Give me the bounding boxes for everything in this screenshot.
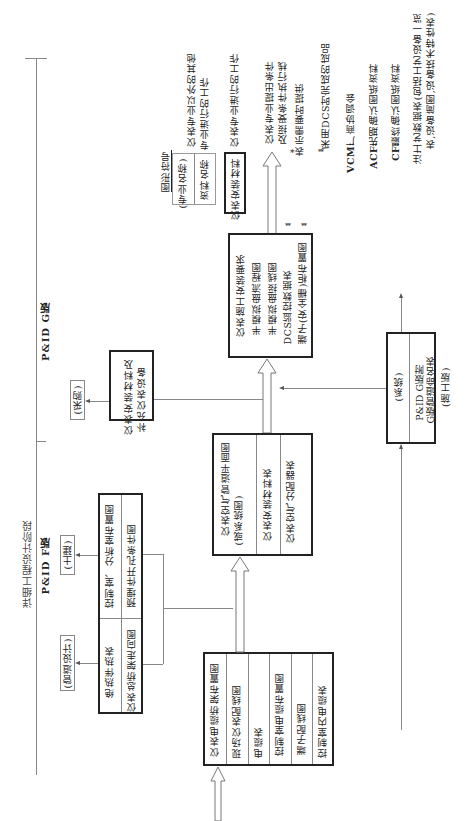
piping-item-1: 绝热伴热表 — [104, 645, 116, 698]
abbr-vcm-value: 厂商协调会 — [345, 92, 357, 145]
connector-system-up — [401, 297, 402, 332]
arrowhead-to-piping — [75, 661, 80, 665]
connector-system-bottom — [401, 445, 402, 730]
cable-divider-2 — [248, 654, 249, 764]
legend-thin-box-line-2: 资料名称 — [199, 158, 211, 200]
cable-item-5: 端子配线图 — [296, 702, 308, 755]
legend-thin-box: (专业名称) 资料名称 — [172, 153, 216, 205]
cable-divider-4 — [291, 654, 292, 764]
box-instrument-air: 仪表空气管道平面图 (或系统图) 仪表安装材料表 仪表空气分配器表 — [212, 433, 313, 556]
divider-row — [100, 618, 141, 619]
cable-divider-1 — [226, 654, 227, 764]
box-supplement-materials: 仪表安装材料及 补充仪表设备 — [109, 350, 154, 421]
legend-thin-desc-2: 专业进行的工作 — [199, 76, 211, 150]
stage-title: 详细工程设计阶段 — [22, 520, 34, 608]
main-item-1: 仪表施工安装要求 — [235, 253, 247, 337]
hollow-arrow-into-cable — [210, 765, 250, 821]
civil-item-2: 预埋件开孔条件图 — [126, 523, 138, 607]
main-item-3: 半模拟盘接线图 — [267, 261, 279, 335]
dept-piping: (管道设计) — [60, 635, 75, 691]
dept-piping-label: (管道设计) — [62, 638, 74, 688]
note-line-1: 工艺数据表(包括工艺设备一览 — [412, 12, 424, 153]
air-item-1b: (或系统图) — [233, 495, 245, 545]
dcs-marker-1: ** — [285, 222, 290, 230]
hollow-arrow-air-to-main — [255, 357, 285, 435]
connector-civil-box-a — [143, 554, 163, 555]
main-item-2: 半模拟盘流程图 — [251, 261, 263, 335]
supplement-line-2: 补充仪表设备 — [136, 366, 148, 432]
legend-thick-box-label: 仪表安装材料 — [230, 157, 242, 220]
legend-title: 图形符号 — [160, 150, 172, 192]
divider-col — [121, 495, 122, 712]
pid-f-label: P&ID F版 — [40, 537, 52, 594]
arrowhead-system-up — [399, 293, 403, 298]
abbr-vcm-key: VCM: — [345, 142, 357, 173]
box-main-deliverables: 仪表施工安装要求 半模拟盘流程图 半模拟盘接线图 DCS监控数据表 端子(安全栅… — [228, 233, 313, 358]
connector-to-civil — [78, 555, 98, 556]
note-line-2: 表,设备简图,设备技术特性表) — [425, 12, 437, 149]
dcs-marker-2: ** — [301, 222, 306, 230]
box-cable: 仪表电缆桥架布置图 现场仪表配线图 电缆表 控制室电缆布置图 端子配线图 控制室… — [203, 652, 334, 766]
system-line-2: G版管道命名表 — [425, 356, 437, 424]
piping-item-2: 仪表总桥架走向图 — [126, 628, 138, 712]
dept-civil: (土建) — [60, 535, 75, 575]
connector-to-piping — [78, 663, 98, 664]
stage-timeline-line — [36, 58, 37, 775]
arrowhead-to-purchasing — [85, 399, 90, 403]
legend-double-star-symbol: ** — [318, 148, 323, 156]
cable-divider-5 — [312, 654, 313, 764]
cable-item-3: 电缆表 — [253, 726, 265, 758]
stage-timeline-tick-mid — [36, 441, 46, 442]
air-item-3: 仪表空气分配器表 — [285, 459, 297, 543]
legend-arrow-desc-1: 仪表专业提出条件 — [264, 60, 276, 144]
abbr-acf-value: 先期确认图纸资料 — [368, 62, 380, 146]
connector-supplement-to-flow — [154, 399, 267, 400]
legend-star-desc: 表示需要时提供 — [294, 82, 306, 156]
connector-system-to-flow — [282, 388, 386, 389]
supplement-line-1: 仪表安装材料及 — [123, 358, 135, 435]
dept-purchasing: (采购) — [70, 380, 85, 420]
air-divider-2 — [280, 435, 281, 554]
arrowhead-system-bottom — [399, 444, 403, 449]
abbr-acf-key: ACF: — [368, 142, 380, 169]
cable-item-1: 仪表电缆桥架布置图 — [209, 662, 221, 757]
cable-divider-3 — [269, 654, 270, 764]
arrowhead-system-to-flow — [279, 386, 284, 390]
stage-timeline-tick-top — [25, 58, 47, 59]
civil-item-1: 控制室、分析室布置图 — [104, 503, 116, 608]
air-divider-1 — [256, 435, 257, 554]
connector-civil-box-b — [143, 664, 163, 665]
legend-arrow-desc-2: 及接受条件执行栈 — [277, 60, 289, 144]
abbr-cf-value: 最终确认图纸资料 — [390, 62, 402, 146]
system-header: (系统) — [393, 372, 405, 401]
legend-thin-box-line-1: (专业名称) — [177, 158, 189, 208]
dept-civil-label: (土建) — [62, 540, 74, 569]
box-civil-piping: 控制室、分析室布置图 预埋件开孔条件图 绝热伴热表 仪表总桥架走向图 — [98, 493, 143, 714]
system-footer: (施工版) — [440, 367, 452, 407]
system-divider — [409, 334, 410, 442]
cable-item-2: 现场仪表配线图 — [231, 684, 243, 758]
air-item-2: 仪表安装材料表 — [262, 467, 274, 541]
connector-civil-vertical — [163, 554, 164, 664]
legend-thin-divider — [194, 154, 195, 204]
hollow-arrow-cable-to-air — [220, 555, 250, 655]
arrowhead-to-civil — [75, 553, 80, 557]
pid-g-label: P&ID G版 — [40, 302, 52, 361]
cable-item-6: 控制室内电缆表 — [317, 684, 329, 758]
cable-item-4: 控制室电缆布置图 — [274, 672, 286, 756]
main-item-4: DCS监控数据表 — [282, 269, 294, 344]
legend-thick-box: 仪表安装材料 — [224, 152, 246, 214]
legend-double-star-desc: 采用DCS时完成的成品 — [320, 42, 332, 149]
legend-thin-desc-1: 仪表专业以外的其他 — [186, 52, 198, 147]
connector-to-purchasing — [88, 401, 110, 402]
legend-thick-desc: 仪表专业进行的工作 — [229, 52, 241, 147]
main-item-5: 端子(安全栅)柜布置图 — [297, 241, 309, 344]
dept-purchasing-label: (采购) — [72, 385, 84, 414]
air-item-1: 仪表空气管道平面图 — [220, 441, 232, 536]
box-system-pid: (系统) P&ID G版附 G版管道命名表 — [386, 332, 436, 444]
